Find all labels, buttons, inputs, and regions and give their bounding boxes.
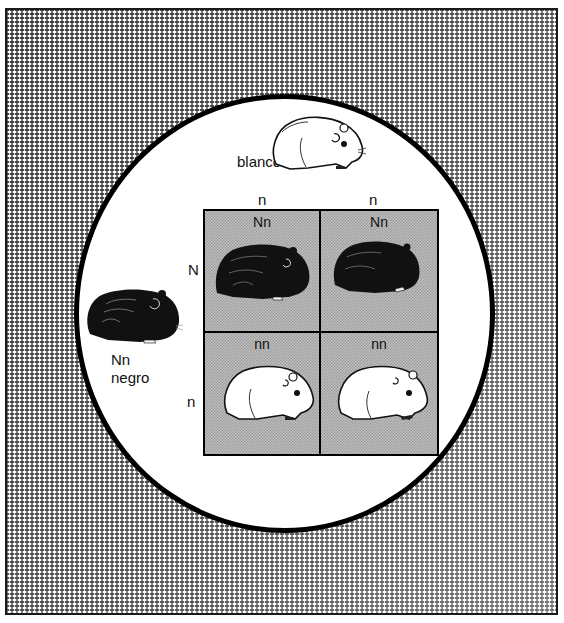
punnett-cell-2-1: nn bbox=[205, 333, 321, 455]
punnett-square-grid: Nn Nn nn nn bbox=[203, 209, 439, 456]
cell-genotype: Nn bbox=[321, 214, 437, 230]
black-hamster-icon bbox=[84, 286, 184, 348]
punnett-cell-1-1: Nn bbox=[205, 211, 321, 333]
black-hamster-icon bbox=[331, 239, 423, 299]
white-hamster-icon bbox=[221, 363, 317, 425]
row-allele-2: n bbox=[187, 394, 195, 411]
column-allele-2: n bbox=[369, 192, 377, 209]
left-parent-genotype: Nn bbox=[111, 352, 130, 369]
cell-genotype: Nn bbox=[205, 214, 319, 230]
column-allele-1: n bbox=[258, 192, 266, 209]
left-parent-phenotype: negro bbox=[111, 370, 149, 387]
cell-genotype: nn bbox=[321, 336, 437, 352]
white-hamster-icon bbox=[335, 363, 431, 425]
black-hamster-icon bbox=[213, 241, 313, 303]
punnett-cell-1-2: Nn bbox=[321, 211, 437, 333]
white-hamster-icon bbox=[268, 112, 368, 178]
row-allele-1: N bbox=[188, 262, 199, 279]
punnett-cell-2-2: nn bbox=[321, 333, 437, 455]
cell-genotype: nn bbox=[205, 336, 319, 352]
